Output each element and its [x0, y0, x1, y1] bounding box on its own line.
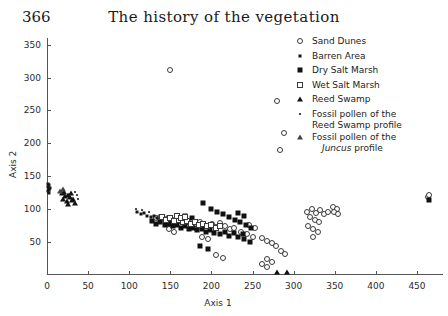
- x-tick-label: 100: [121, 281, 138, 291]
- x-tick: [253, 271, 254, 275]
- legend-item: Reed Swamp: [300, 94, 448, 107]
- data-point: [187, 226, 192, 231]
- filled-triangle-icon: [297, 97, 303, 102]
- small-filled-square-icon: [299, 54, 302, 57]
- data-point: [65, 192, 71, 197]
- data-point: [148, 211, 150, 213]
- data-point: [226, 233, 231, 238]
- data-point: [172, 218, 175, 221]
- data-point: [208, 222, 214, 228]
- data-point: [227, 226, 233, 232]
- x-tick: [294, 271, 295, 275]
- data-point: [269, 259, 275, 265]
- data-point: [183, 213, 188, 218]
- x-tick: [170, 271, 171, 275]
- legend-item: Barren Area: [300, 51, 448, 64]
- data-point: [217, 220, 223, 226]
- legend-item: Dry Salt Marsh: [300, 65, 448, 78]
- data-point: [185, 219, 191, 225]
- data-point: [309, 206, 315, 212]
- data-point: [217, 232, 222, 237]
- open-square-icon: [297, 82, 303, 88]
- data-point: [189, 216, 194, 221]
- data-point: [313, 210, 319, 216]
- data-point: [213, 224, 219, 230]
- data-point: [213, 225, 219, 231]
- open-circle-icon: [297, 38, 303, 44]
- y-axis-line: [47, 38, 48, 275]
- data-point: [259, 235, 265, 241]
- legend-item-label-line2: Juncus profile: [322, 143, 448, 154]
- legend-item-label: Wet Salt Marsh: [312, 80, 448, 91]
- data-point: [170, 224, 175, 229]
- x-axis-label: Axis 1: [204, 298, 231, 308]
- data-point: [315, 229, 321, 235]
- data-point: [152, 214, 155, 217]
- data-point: [67, 195, 73, 200]
- data-point: [76, 194, 78, 196]
- data-point: [154, 221, 159, 226]
- data-point: [136, 210, 139, 213]
- data-point: [220, 255, 226, 261]
- data-point: [165, 215, 171, 221]
- data-point: [62, 194, 68, 199]
- x-tick: [47, 271, 48, 275]
- data-point: [325, 209, 331, 215]
- data-point: [159, 216, 162, 219]
- data-point: [161, 217, 167, 223]
- data-point: [203, 229, 208, 234]
- data-point: [204, 223, 210, 229]
- data-point: [174, 222, 179, 227]
- data-point: [65, 201, 71, 206]
- data-point: [274, 98, 280, 104]
- data-point: [273, 243, 279, 249]
- data-point: [68, 191, 74, 196]
- x-tick-label: 200: [203, 281, 220, 291]
- data-point: [167, 67, 173, 73]
- y-tick: [47, 110, 51, 111]
- data-point: [157, 214, 163, 220]
- data-point: [217, 223, 223, 229]
- data-point: [169, 220, 172, 223]
- x-tick-label: 0: [44, 281, 50, 291]
- y-tick-label: 350: [24, 40, 41, 50]
- data-point: [169, 217, 175, 223]
- data-point: [209, 221, 215, 227]
- data-point: [189, 218, 195, 224]
- data-point: [150, 219, 155, 224]
- data-point: [180, 219, 186, 225]
- data-point: [200, 221, 206, 227]
- data-point: [199, 234, 205, 240]
- data-point: [166, 221, 171, 226]
- page-title: The history of the vegetation: [0, 8, 448, 26]
- data-point: [207, 228, 212, 233]
- data-point: [264, 256, 270, 262]
- data-point: [201, 200, 206, 205]
- data-point: [215, 209, 220, 214]
- data-point: [305, 223, 311, 229]
- legend-item-label: Sand Dunes: [312, 36, 448, 47]
- data-point: [209, 207, 214, 212]
- data-point: [238, 220, 243, 225]
- data-point: [158, 220, 163, 225]
- data-point: [182, 214, 188, 220]
- data-point: [427, 197, 432, 202]
- data-point: [231, 230, 236, 235]
- data-point: [188, 221, 194, 227]
- data-point: [278, 248, 284, 254]
- x-tick-label: 250: [244, 281, 261, 291]
- data-point: [220, 212, 225, 217]
- data-point: [199, 226, 204, 231]
- data-point: [242, 237, 247, 242]
- data-point: [156, 217, 159, 220]
- data-point: [192, 219, 198, 225]
- data-point: [177, 218, 183, 224]
- data-point: [197, 219, 203, 225]
- data-point: [64, 199, 70, 204]
- y-tick-label: 150: [24, 171, 41, 181]
- data-point: [61, 190, 67, 195]
- data-point: [193, 221, 199, 227]
- data-point: [331, 209, 337, 215]
- data-point: [174, 213, 180, 219]
- data-point: [244, 231, 250, 237]
